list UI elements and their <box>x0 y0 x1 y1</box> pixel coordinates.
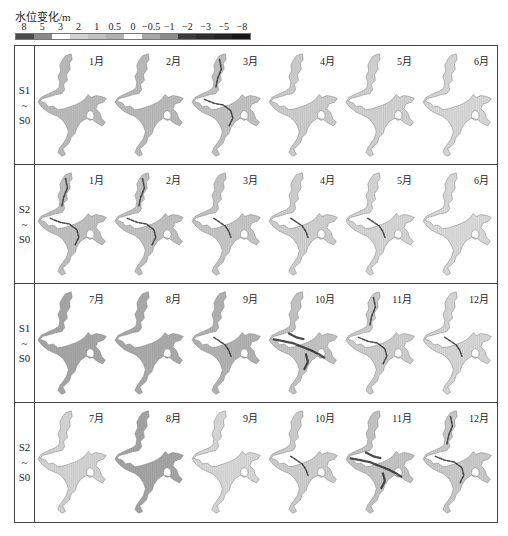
legend-tick-label: 2 <box>76 21 81 32</box>
month-label: 2月 <box>166 53 181 68</box>
legend-tick-label: −3 <box>200 21 211 32</box>
map-row: S2~S07月8月9月10月11月12月 <box>15 403 497 522</box>
row-label-part: S0 <box>19 113 31 128</box>
month-label: 5月 <box>397 172 412 187</box>
map-panel: 5月 <box>343 165 420 283</box>
map-panel: 10月 <box>266 403 343 522</box>
month-label: 9月 <box>243 291 258 306</box>
month-label: 7月 <box>89 291 104 306</box>
map-row: S2~S01月2月3月4月5月6月 <box>15 165 497 284</box>
map-panel: 1月 <box>35 46 112 164</box>
row-label: S1~S0 <box>15 46 35 164</box>
month-label: 3月 <box>243 53 258 68</box>
row-label-part: S0 <box>19 351 31 366</box>
map-panel: 6月 <box>420 165 497 283</box>
legend-ticks: 853210.50−0.5−1−2−3−5−8 <box>15 21 255 33</box>
map-row: S1~S01月2月3月4月5月6月 <box>15 46 497 165</box>
row-label-part: ~ <box>22 98 28 113</box>
map-panel: 9月 <box>189 403 266 522</box>
map-panel: 12月 <box>420 403 497 522</box>
map-panel: 7月 <box>35 284 112 402</box>
month-label: 10月 <box>315 410 335 425</box>
row-label-part: S0 <box>19 470 31 485</box>
color-bar-segment <box>214 34 232 39</box>
month-label: 12月 <box>469 291 489 306</box>
month-label: 1月 <box>89 53 104 68</box>
month-label: 6月 <box>474 53 489 68</box>
color-bar-segment <box>16 34 34 39</box>
map-grid: S1~S01月2月3月4月5月6月S2~S01月2月3月4月5月6月S1~S07… <box>14 45 498 523</box>
row-label: S1~S0 <box>15 284 35 402</box>
map-panel: 10月 <box>266 284 343 402</box>
legend-tick-label: −5 <box>218 21 229 32</box>
map-panel: 5月 <box>343 46 420 164</box>
legend-tick-label: 0 <box>131 21 136 32</box>
month-label: 7月 <box>89 410 104 425</box>
legend-tick-label: 5 <box>40 21 45 32</box>
color-bar <box>15 33 251 40</box>
month-label: 11月 <box>392 291 412 306</box>
map-panel: 11月 <box>343 284 420 402</box>
map-panel: 8月 <box>112 403 189 522</box>
color-bar-segment <box>34 34 52 39</box>
color-bar-segment <box>160 34 178 39</box>
color-bar-segment <box>106 34 124 39</box>
legend-tick-label: 8 <box>22 21 27 32</box>
month-label: 1月 <box>89 172 104 187</box>
map-panel: 12月 <box>420 284 497 402</box>
color-bar-segment <box>196 34 214 39</box>
row-label-part: S1 <box>19 321 31 336</box>
month-label: 2月 <box>166 172 181 187</box>
row-label-part: ~ <box>22 455 28 470</box>
month-label: 3月 <box>243 172 258 187</box>
month-label: 8月 <box>166 410 181 425</box>
map-panel: 3月 <box>189 165 266 283</box>
map-panel: 2月 <box>112 46 189 164</box>
legend-tick-label: −8 <box>237 21 248 32</box>
map-panel: 4月 <box>266 46 343 164</box>
color-bar-segment <box>142 34 160 39</box>
row-label-part: S1 <box>19 83 31 98</box>
row-label-part: ~ <box>22 217 28 232</box>
month-label: 11月 <box>392 410 412 425</box>
map-panel: 3月 <box>189 46 266 164</box>
month-label: 4月 <box>320 53 335 68</box>
month-label: 12月 <box>469 410 489 425</box>
row-label-part: S0 <box>19 232 31 247</box>
map-panel: 4月 <box>266 165 343 283</box>
color-bar-segment <box>178 34 196 39</box>
row-label-part: S2 <box>19 202 31 217</box>
color-bar-segment <box>124 34 142 39</box>
row-label: S2~S0 <box>15 403 35 522</box>
color-bar-segment <box>70 34 88 39</box>
month-label: 5月 <box>397 53 412 68</box>
color-bar-segment <box>52 34 70 39</box>
month-label: 9月 <box>243 410 258 425</box>
legend-tick-label: −0.5 <box>142 21 160 32</box>
month-label: 6月 <box>474 172 489 187</box>
legend-tick-label: 0.5 <box>109 21 122 32</box>
row-label-part: ~ <box>22 336 28 351</box>
map-panel: 8月 <box>112 284 189 402</box>
row-label: S2~S0 <box>15 165 35 283</box>
map-panel: 9月 <box>189 284 266 402</box>
legend-tick-label: 1 <box>94 21 99 32</box>
month-label: 10月 <box>315 291 335 306</box>
map-row: S1~S07月8月9月10月11月12月 <box>15 284 497 403</box>
month-label: 4月 <box>320 172 335 187</box>
color-bar-segment <box>88 34 106 39</box>
map-panel: 6月 <box>420 46 497 164</box>
map-panel: 11月 <box>343 403 420 522</box>
map-panel: 1月 <box>35 165 112 283</box>
color-bar-segment <box>232 34 250 39</box>
month-label: 8月 <box>166 291 181 306</box>
row-label-part: S2 <box>19 440 31 455</box>
map-panel: 7月 <box>35 403 112 522</box>
legend-tick-label: −2 <box>182 21 193 32</box>
legend-tick-label: 3 <box>58 21 63 32</box>
map-panel: 2月 <box>112 165 189 283</box>
legend-tick-label: −1 <box>164 21 175 32</box>
